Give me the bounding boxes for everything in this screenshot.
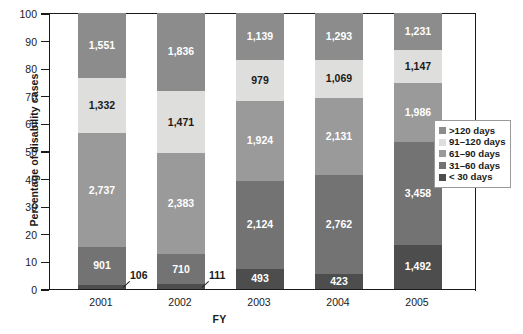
y-axis-tick xyxy=(41,234,49,235)
y-axis-tick xyxy=(41,69,49,70)
segment-value-label: 2,737 xyxy=(89,185,115,196)
legend-swatch-icon xyxy=(439,150,446,157)
y-axis-tick xyxy=(41,262,49,263)
bar-segment-2002--30-days xyxy=(157,284,205,289)
segment-value-label: 423 xyxy=(330,276,348,287)
segment-value-label: 979 xyxy=(251,75,269,86)
segment-value-label: 1,069 xyxy=(326,73,352,84)
bar-segment-2003--30-days: 493 xyxy=(236,269,284,289)
segment-value-label: 1,836 xyxy=(168,46,194,57)
legend: >120 days91–120 days61–90 days31–60 days… xyxy=(434,120,511,188)
y-axis-tick-label: 60 xyxy=(8,119,37,129)
legend-swatch-icon xyxy=(439,174,446,181)
callout-label-111: 111 xyxy=(208,269,226,281)
y-axis-tick xyxy=(41,179,49,180)
callout-label-106: 106 xyxy=(129,269,149,281)
bar-segment-2001--120-days: 1,551 xyxy=(78,13,126,78)
y-axis-tick xyxy=(41,207,49,208)
x-axis-title: FY xyxy=(0,313,523,325)
bar-segment-2001-31-60-days: 901 xyxy=(78,247,126,285)
segment-value-label: 901 xyxy=(93,260,111,271)
legend-label: 91–120 days xyxy=(449,137,506,147)
y-axis-tick-label: 80 xyxy=(8,64,37,74)
segment-value-label: 1,492 xyxy=(405,261,431,272)
segment-value-label: 1,471 xyxy=(168,117,194,128)
segment-value-label: 1,293 xyxy=(326,31,352,42)
y-axis-tick-label: 10 xyxy=(8,257,37,267)
segment-value-label: 2,762 xyxy=(326,219,352,230)
bar-segment-2002-31-60-days: 710 xyxy=(157,254,205,284)
segment-value-label: 1,139 xyxy=(247,31,273,42)
y-axis-tick-label: 0 xyxy=(8,285,37,295)
segment-value-label: 1,332 xyxy=(89,100,115,111)
legend-item: 61–90 days xyxy=(439,148,506,160)
stacked-bar-chart: Percentage of disability cases 010203040… xyxy=(0,0,523,334)
bar-segment-2002-61-90-days: 2,383 xyxy=(157,153,205,254)
legend-item: 91–120 days xyxy=(439,137,506,149)
y-axis-tick-label: 50 xyxy=(8,147,37,157)
legend-swatch-icon xyxy=(439,127,446,134)
bar-segment-2004--30-days: 423 xyxy=(315,274,363,289)
x-axis-label-2004: 2004 xyxy=(308,296,368,308)
bar-2001: 1,5511,3322,737901 xyxy=(78,13,126,289)
segment-value-label: 2,124 xyxy=(247,219,273,230)
bar-segment-2003-61-90-days: 1,924 xyxy=(236,101,284,181)
y-axis-tick xyxy=(41,41,49,42)
bar-segment-2003--120-days: 1,139 xyxy=(236,13,284,60)
legend-label: < 30 days xyxy=(449,172,492,182)
bar-segment-2003-31-60-days: 2,124 xyxy=(236,181,284,269)
bar-2002: 1,8361,4712,383710 xyxy=(157,13,205,289)
y-axis-tick xyxy=(41,151,49,152)
legend-label: 31–60 days xyxy=(449,161,500,171)
bar-2003: 1,1399791,9242,124493 xyxy=(236,13,284,289)
segment-value-label: 1,551 xyxy=(89,40,115,51)
legend-label: >120 days xyxy=(449,126,495,136)
plot-area: 1,5511,3322,7379011,8361,4712,3837101,13… xyxy=(49,14,475,290)
x-axis-label-2005: 2005 xyxy=(387,296,447,308)
segment-value-label: 2,131 xyxy=(326,131,352,142)
legend-item: < 30 days xyxy=(439,171,506,183)
segment-value-label: 1,924 xyxy=(247,135,273,146)
y-axis-tick-label: 100 xyxy=(8,9,37,19)
legend-item: 31–60 days xyxy=(439,160,506,172)
bar-segment-2002--120-days: 1,836 xyxy=(157,13,205,91)
segment-value-label: 710 xyxy=(172,264,190,275)
y-axis-tick xyxy=(41,289,49,290)
bar-segment-2001-61-90-days: 2,737 xyxy=(78,133,126,247)
y-axis-tick xyxy=(41,96,49,97)
legend-label: 61–90 days xyxy=(449,149,500,159)
bar-segment-2001--30-days xyxy=(78,285,126,289)
y-axis-tick-label: 90 xyxy=(8,37,37,47)
bar-segment-2005-91-120-days: 1,147 xyxy=(394,50,442,84)
x-axis-label-2001: 2001 xyxy=(71,296,131,308)
bar-segment-2005--30-days: 1,492 xyxy=(394,245,442,289)
bar-segment-2004--120-days: 1,293 xyxy=(315,13,363,59)
y-axis-tick xyxy=(41,13,49,14)
x-axis-title-text: FY xyxy=(212,313,226,325)
y-axis-tick-label: 30 xyxy=(8,202,37,212)
segment-value-label: 1,147 xyxy=(405,61,431,72)
bar-segment-2005--120-days: 1,231 xyxy=(394,13,442,49)
y-axis-tick xyxy=(41,124,49,125)
legend-item: >120 days xyxy=(439,125,506,137)
segment-value-label: 2,383 xyxy=(168,198,194,209)
y-axis-tick-label: 20 xyxy=(8,230,37,240)
bar-segment-2004-31-60-days: 2,762 xyxy=(315,175,363,274)
segment-value-label: 1,986 xyxy=(405,107,431,118)
segment-value-label: 1,231 xyxy=(405,26,431,37)
y-axis-tick-label: 40 xyxy=(8,175,37,185)
bar-segment-2003-91-120-days: 979 xyxy=(236,60,284,101)
y-axis-tick-label: 70 xyxy=(8,92,37,102)
segment-value-label: 493 xyxy=(251,273,269,284)
segment-value-label: 3,458 xyxy=(405,188,431,199)
legend-swatch-icon xyxy=(439,162,446,169)
x-axis-label-2002: 2002 xyxy=(150,296,210,308)
bar-2004: 1,2931,0692,1312,762423 xyxy=(315,13,363,289)
x-axis-label-2003: 2003 xyxy=(229,296,289,308)
bar-segment-2002-91-120-days: 1,471 xyxy=(157,91,205,153)
bar-segment-2004-61-90-days: 2,131 xyxy=(315,98,363,175)
bar-segment-2004-91-120-days: 1,069 xyxy=(315,60,363,98)
legend-swatch-icon xyxy=(439,139,446,146)
bar-segment-2001-91-120-days: 1,332 xyxy=(78,78,126,133)
